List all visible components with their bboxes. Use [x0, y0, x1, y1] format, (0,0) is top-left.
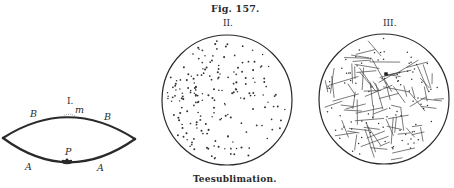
- droplet-dots: [167, 40, 286, 159]
- large-crystal-dot: [384, 72, 387, 75]
- left-tip: [2, 137, 5, 140]
- upper-watch-glass-b: [3, 117, 135, 139]
- label-p: P: [65, 147, 71, 157]
- circle-ii-outline: [162, 35, 292, 165]
- label-m: m: [75, 105, 84, 115]
- droplet-dots: [327, 38, 438, 155]
- label-a-left: A: [25, 162, 32, 172]
- tea-sample-p: [62, 159, 73, 165]
- crystal-needles: [325, 41, 444, 160]
- label-b-right: B: [104, 112, 111, 122]
- panel-ii-label: II.: [223, 19, 233, 28]
- panel-i-label: I.: [67, 97, 73, 106]
- right-tip: [134, 138, 137, 141]
- panel-ii-sublimate-droplets: [162, 35, 292, 165]
- figure-number: Fig. 157.: [211, 4, 260, 14]
- label-b-left: B: [30, 109, 37, 119]
- figure-caption: Teesublimation.: [193, 175, 276, 184]
- label-a-right: A: [97, 163, 104, 173]
- panel-iii-label: III.: [383, 19, 397, 28]
- panel-iii-crystal-needles: [319, 34, 449, 164]
- figure-157: [0, 0, 454, 188]
